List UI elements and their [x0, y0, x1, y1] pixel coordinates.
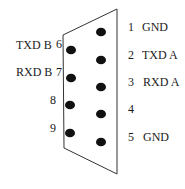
pin-9-contact	[65, 129, 75, 138]
pin-5-contact	[96, 138, 106, 147]
pin-4-contact	[96, 110, 106, 119]
db9-connector-diagram: 1 GND 2 TXD A 3 RXD A 4 5 GND TXD B 6 RX…	[0, 0, 185, 189]
pin-6-contact	[66, 46, 76, 55]
pin-2-signal: TXD A	[142, 49, 178, 61]
pin-6-signal: TXD B	[16, 39, 52, 51]
pin-2-number: 2	[128, 49, 134, 61]
pin-6-number: 6	[56, 38, 62, 50]
pin-5-signal: GND	[143, 131, 169, 143]
pin-5-number: 5	[128, 131, 134, 143]
pin-1-number: 1	[128, 21, 134, 33]
pin-7-number: 7	[56, 66, 62, 78]
pin-2-contact	[96, 56, 106, 65]
pin-8-number: 8	[50, 94, 56, 106]
pin-3-signal: RXD A	[143, 76, 179, 88]
connector-outline	[63, 9, 117, 174]
pin-3-contact	[96, 83, 106, 92]
pin-7-contact	[66, 74, 76, 83]
pin-1-contact	[96, 28, 106, 37]
pin-3-number: 3	[128, 76, 134, 88]
pin-8-contact	[65, 101, 75, 110]
pin-7-signal: RXD B	[16, 66, 52, 78]
pin-1-signal: GND	[142, 21, 168, 33]
pin-9-number: 9	[50, 122, 56, 134]
pin-4-number: 4	[128, 103, 134, 115]
